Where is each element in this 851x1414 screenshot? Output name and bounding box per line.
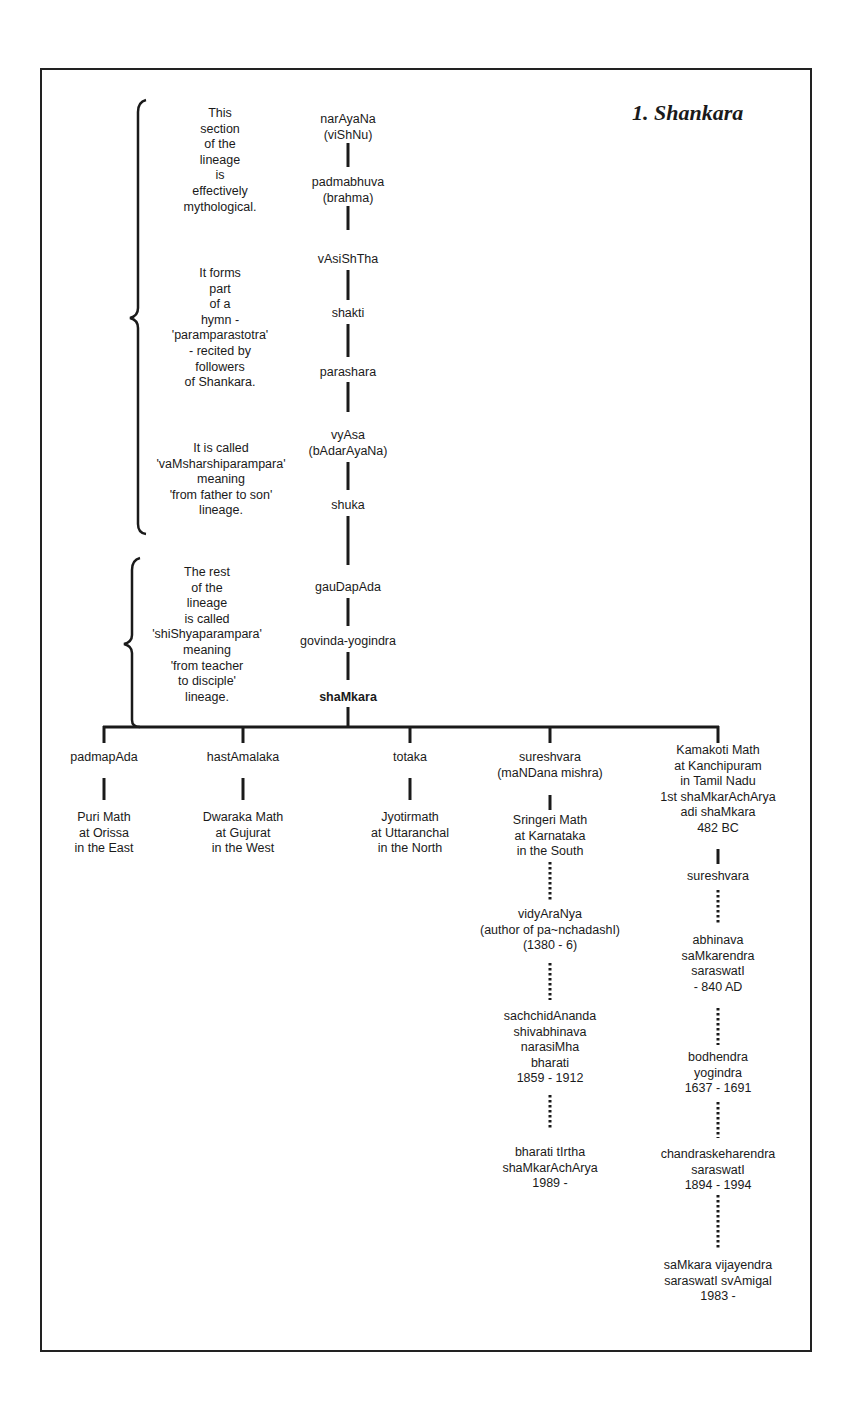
- note-shishya: The rest of the lineage is called 'shiSh…: [152, 565, 262, 705]
- node-hastamalaka: hastAmalaka: [207, 750, 279, 766]
- node-chandrasekharendra: chandraskeharendra saraswatI 1894 - 1994: [661, 1147, 776, 1194]
- node-vasishtha: vAsiShTha: [318, 252, 378, 268]
- math-kamakoti: Kamakoti Math at Kanchipuram in Tamil Na…: [660, 743, 775, 837]
- node-abhinava-samkarendra: abhinava saMkarendra saraswatI - 840 AD: [682, 933, 755, 995]
- node-shuka: shuka: [331, 498, 364, 514]
- note-vamsha: It is called 'vaMsharshiparampara' meani…: [156, 441, 285, 519]
- node-totaka: totaka: [393, 750, 427, 766]
- note-hymn: It forms part of a hymn - 'paramparastot…: [172, 266, 268, 391]
- connector-lines: [0, 0, 851, 1414]
- node-vijayendra: saMkara vijayendra saraswatI svAmigal 19…: [664, 1258, 772, 1305]
- node-gaudapada: gauDapAda: [315, 580, 381, 596]
- node-sureshvara: sureshvara (maNDana mishra): [497, 750, 603, 781]
- brace-lower: [124, 558, 140, 727]
- node-parashara: parashara: [320, 365, 376, 381]
- node-kamakoti-sureshvara: sureshvara: [687, 869, 749, 885]
- math-sringeri: Sringeri Math at Karnataka in the South: [513, 813, 587, 860]
- math-jyotirmath: Jyotirmath at Uttaranchal in the North: [371, 810, 449, 857]
- note-mythological: This section of the lineage is effective…: [184, 106, 257, 215]
- node-sachchidananda: sachchidAnanda shivabhinava narasiMha bh…: [504, 1009, 596, 1087]
- node-bodhendra: bodhendra yogindra 1637 - 1691: [685, 1050, 752, 1097]
- node-vyasa: vyAsa (bAdarAyaNa): [309, 428, 388, 459]
- brace-upper: [130, 100, 146, 534]
- node-vidyaranya: vidyAraNya (author of pa~nchadashI) (138…: [480, 907, 620, 954]
- node-shakti: shakti: [332, 306, 365, 322]
- node-govinda-yogindra: govinda-yogindra: [300, 634, 396, 650]
- node-padmabhuva: padmabhuva (brahma): [312, 175, 384, 206]
- node-bharati-tirtha: bharati tIrtha shaMkarAchArya 1989 -: [502, 1145, 597, 1192]
- node-narayana: narAyaNa (viShNu): [320, 112, 375, 143]
- node-padmapada: padmapAda: [70, 750, 137, 766]
- math-puri: Puri Math at Orissa in the East: [74, 810, 133, 857]
- node-shamkara: shaMkara: [319, 690, 377, 706]
- math-dwaraka: Dwaraka Math at Gujurat in the West: [203, 810, 284, 857]
